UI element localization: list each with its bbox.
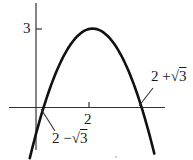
- parabola-curve: [30, 29, 155, 159]
- root-left-text: 2 −: [52, 130, 72, 146]
- root-right-radicand: 3: [179, 68, 187, 84]
- root-label-left: 2 −√3: [52, 131, 87, 146]
- leader-right-root: [139, 88, 153, 106]
- root-label-right: 2 +√3: [151, 69, 186, 84]
- sqrt-icon: √: [72, 130, 80, 146]
- x-tick-label-2: 2: [84, 112, 92, 127]
- y-tick-label-3: 3: [23, 21, 31, 36]
- leader-left-root: [41, 109, 55, 131]
- root-left-radicand: 3: [80, 130, 88, 146]
- root-right-text: 2 +: [151, 68, 171, 84]
- speck: [115, 156, 116, 157]
- sqrt-icon: √: [171, 68, 179, 84]
